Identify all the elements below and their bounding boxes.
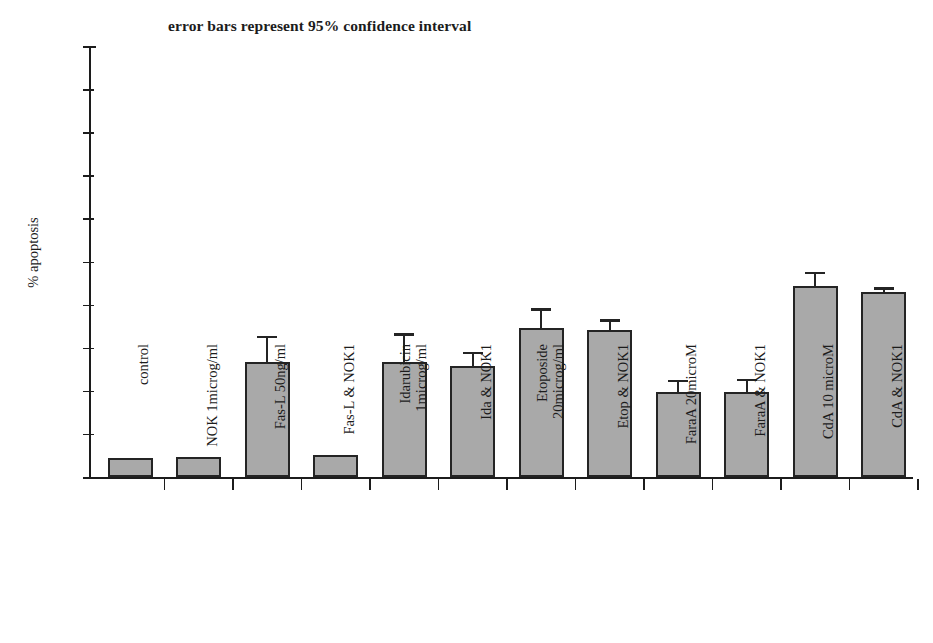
error-bar-stem bbox=[883, 290, 885, 292]
error-bar-cap bbox=[600, 319, 620, 322]
error-bar-stem bbox=[677, 382, 679, 392]
x-category-label-line: 20microg/ml bbox=[550, 344, 566, 494]
bar-chart-figure: error bars represent 95% confidence inte… bbox=[0, 0, 933, 643]
x-category-label-line: Etop & NOK1 bbox=[615, 344, 631, 429]
x-category-label: Etoposide20microg/ml bbox=[534, 344, 566, 494]
x-category-label-line: Etoposide bbox=[534, 344, 550, 402]
error-bar-stem bbox=[540, 311, 542, 328]
error-bar-stem bbox=[814, 274, 816, 286]
error-bar-cap bbox=[874, 287, 894, 290]
x-category-label: Fas-L 50ng/ml bbox=[272, 344, 288, 494]
x-category-label: CdA 10 microM bbox=[820, 344, 836, 494]
x-category-label: FaraA & NOK1 bbox=[752, 344, 768, 494]
x-category-label-line: Ida & NOK1 bbox=[478, 344, 494, 420]
error-bar-cap bbox=[394, 333, 414, 336]
x-category-label-line: NOK 1microg/ml bbox=[204, 344, 220, 447]
x-category-label-line: Fas-L & NOK1 bbox=[341, 344, 357, 434]
x-category-label: Idarubicin1microg/ml bbox=[397, 344, 429, 494]
x-category-label-line: CdA 10 microM bbox=[820, 344, 836, 439]
x-category-label: CdA & NOK1 bbox=[889, 344, 905, 494]
error-bar-stem bbox=[266, 338, 268, 362]
error-bar-cap bbox=[805, 272, 825, 275]
x-category-label: control bbox=[135, 344, 151, 494]
error-bar-cap bbox=[257, 336, 277, 339]
x-category-label: Fas-L & NOK1 bbox=[341, 344, 357, 494]
x-category-label-line: FaraA 20microM bbox=[683, 344, 699, 444]
x-category-label: NOK 1microg/ml bbox=[204, 344, 220, 494]
x-category-label-line: Fas-L 50ng/ml bbox=[272, 344, 288, 429]
x-category-label: Etop & NOK1 bbox=[615, 344, 631, 494]
x-category-label-line: CdA & NOK1 bbox=[889, 344, 905, 428]
x-category-label: FaraA 20microM bbox=[683, 344, 699, 494]
error-bar-stem bbox=[472, 354, 474, 366]
x-category-label-line: control bbox=[135, 344, 151, 385]
x-category-label-line: 1microg/ml bbox=[413, 344, 429, 494]
x-category-label: Ida & NOK1 bbox=[478, 344, 494, 494]
x-category-label-line: Idarubicin bbox=[397, 344, 413, 404]
plot-area bbox=[0, 0, 933, 643]
error-bar-cap bbox=[531, 308, 551, 311]
error-bar-stem bbox=[609, 322, 611, 331]
error-bar-stem bbox=[746, 381, 748, 392]
x-category-label-line: FaraA & NOK1 bbox=[752, 344, 768, 437]
